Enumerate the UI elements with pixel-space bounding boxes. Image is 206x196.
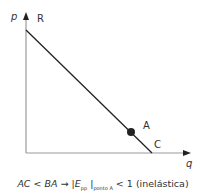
point-c-label: C: [154, 140, 161, 150]
demand-diagram: [0, 0, 206, 196]
caption-rhs: < 1 (inelástica): [116, 178, 189, 189]
point-a-dot: [127, 128, 135, 136]
point-a-label: A: [143, 121, 150, 131]
caption-lhs: AC < BA: [17, 178, 57, 189]
caption-arrow: →: [61, 178, 69, 189]
y-axis-label: p: [11, 12, 17, 22]
caption: AC < BA → |Epp |ponto A < 1 (inelástica): [0, 178, 206, 191]
x-axis-arrow-icon: [183, 150, 191, 156]
x-axis-label: q: [186, 159, 192, 169]
y-axis-arrow-icon: [23, 12, 29, 20]
point-r-label: R: [37, 14, 44, 24]
caption-elasticity-sub: pp: [81, 185, 87, 191]
caption-point-sub: ponto A: [93, 185, 112, 191]
